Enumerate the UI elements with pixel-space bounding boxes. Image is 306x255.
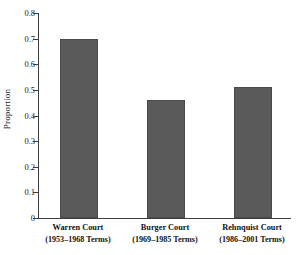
y-tick-label: 0.1 (13, 188, 35, 197)
x-axis-labels: Warren Court (1953–1968 Terms) Burger Co… (38, 222, 291, 252)
bar-rehnquist-court (234, 87, 272, 218)
x-label-years: (1953–1968 Terms) (30, 234, 126, 246)
x-axis-line (38, 218, 291, 219)
x-label-warren-court: Warren Court (1953–1968 Terms) (30, 222, 126, 245)
x-label-title: Burger Court (141, 223, 189, 232)
y-tick-label: 0.4 (13, 112, 35, 121)
y-tick-label: 0.6 (13, 60, 35, 69)
bar-warren-court (60, 39, 98, 218)
y-tick-label: 0.3 (13, 137, 35, 146)
plot-area (39, 13, 291, 218)
x-label-rehnquist-court: Rehnquist Court (1986–2001 Terms) (204, 222, 300, 245)
x-label-years: (1986–2001 Terms) (204, 234, 300, 246)
x-label-title: Warren Court (53, 223, 104, 232)
x-label-burger-court: Burger Court (1969–1985 Terms) (117, 222, 213, 245)
y-tick-label: 0.5 (13, 86, 35, 95)
x-label-title: Rehnquist Court (222, 223, 282, 232)
y-tick-label: 0.7 (13, 35, 35, 44)
y-axis-ticks: 0.8 0.7 0.6 0.5 0.4 0.3 0.2 0.1 0 (11, 0, 35, 255)
bar-chart: Proportion 0.8 0.7 0.6 0.5 0.4 0.3 0.2 0… (0, 0, 306, 255)
x-label-years: (1969–1985 Terms) (117, 234, 213, 246)
y-tick-label: 0.2 (13, 163, 35, 172)
bar-burger-court (147, 100, 185, 218)
y-tick-label: 0.8 (13, 9, 35, 18)
